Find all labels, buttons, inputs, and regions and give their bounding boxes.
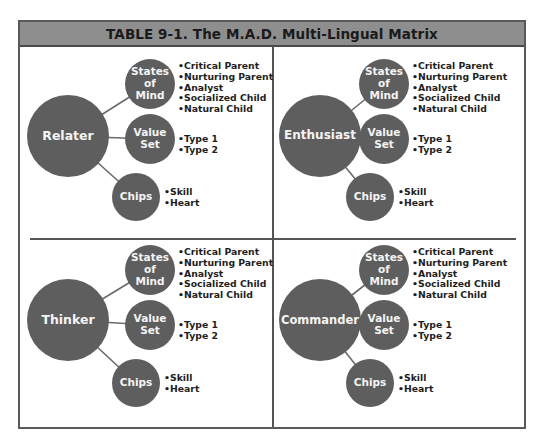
node-label-line: Set bbox=[140, 138, 160, 150]
personality-type-label: Commander bbox=[281, 314, 359, 327]
personality-type-circle: Commander bbox=[279, 279, 361, 361]
quadrant-commander: CommanderStatesofMindCritical ParentNurt… bbox=[274, 242, 528, 432]
list-item: Natural Child bbox=[178, 104, 273, 115]
quadrant-relater: RelaterStatesofMindCritical ParentNurtur… bbox=[20, 47, 274, 237]
chips-list: SkillHeart bbox=[164, 187, 199, 209]
node-label-line: Chips bbox=[120, 190, 153, 202]
personality-type-circle: Thinker bbox=[27, 279, 109, 361]
node-chips: Chips bbox=[346, 173, 394, 221]
node-states-of-mind: StatesofMind bbox=[125, 59, 175, 109]
node-label-line: Mind bbox=[135, 89, 164, 101]
node-label-line: States bbox=[131, 65, 169, 77]
list-item: Type 2 bbox=[412, 331, 452, 342]
list-item: Nurturing Parent bbox=[178, 258, 273, 269]
node-label-line: Chips bbox=[354, 376, 387, 388]
node-label-line: States bbox=[365, 65, 403, 77]
list-item: Type 2 bbox=[178, 331, 218, 342]
node-states-of-mind: StatesofMind bbox=[359, 59, 409, 109]
node-label-line: of bbox=[144, 263, 156, 275]
states-of-mind-list: Critical ParentNurturing ParentAnalystSo… bbox=[178, 61, 273, 115]
node-label-line: of bbox=[378, 263, 390, 275]
list-item: Nurturing Parent bbox=[412, 258, 507, 269]
list-item: Natural Child bbox=[412, 104, 507, 115]
list-item: Nurturing Parent bbox=[412, 72, 507, 83]
node-chips: Chips bbox=[112, 173, 160, 221]
personality-type-label: Relater bbox=[42, 129, 93, 143]
value-set-list: Type 1Type 2 bbox=[178, 134, 218, 156]
value-set-list: Type 1Type 2 bbox=[412, 134, 452, 156]
node-label-line: Value bbox=[368, 126, 401, 138]
node-states-of-mind: StatesofMind bbox=[359, 245, 409, 295]
quadrant-thinker: ThinkerStatesofMindCritical ParentNurtur… bbox=[20, 242, 274, 432]
node-value-set: ValueSet bbox=[359, 300, 409, 350]
list-item: Heart bbox=[398, 384, 433, 395]
node-chips: Chips bbox=[346, 359, 394, 407]
node-value-set: ValueSet bbox=[125, 300, 175, 350]
chips-list: SkillHeart bbox=[398, 187, 433, 209]
quadrant-enthusiast: EnthusiastStatesofMindCritical ParentNur… bbox=[274, 47, 528, 237]
node-label-line: Value bbox=[134, 312, 167, 324]
node-label-line: Value bbox=[368, 312, 401, 324]
table-header: TABLE 9-1. The M.A.D. Multi-Lingual Matr… bbox=[20, 22, 524, 47]
list-item: Type 2 bbox=[412, 145, 452, 156]
list-item: Natural Child bbox=[412, 290, 507, 301]
node-label-line: Mind bbox=[369, 275, 398, 287]
chips-list: SkillHeart bbox=[164, 373, 199, 395]
list-item: Heart bbox=[164, 384, 199, 395]
node-label-line: Value bbox=[134, 126, 167, 138]
node-label-line: of bbox=[378, 77, 390, 89]
node-label-line: Set bbox=[140, 324, 160, 336]
states-of-mind-list: Critical ParentNurturing ParentAnalystSo… bbox=[178, 247, 273, 301]
node-label-line: States bbox=[365, 251, 403, 263]
personality-type-circle: Enthusiast bbox=[279, 95, 361, 177]
node-chips: Chips bbox=[112, 359, 160, 407]
states-of-mind-list: Critical ParentNurturing ParentAnalystSo… bbox=[412, 247, 507, 301]
horizontal-divider bbox=[30, 238, 516, 240]
node-value-set: ValueSet bbox=[359, 114, 409, 164]
node-value-set: ValueSet bbox=[125, 114, 175, 164]
node-states-of-mind: StatesofMind bbox=[125, 245, 175, 295]
chips-list: SkillHeart bbox=[398, 373, 433, 395]
personality-type-label: Enthusiast bbox=[284, 129, 356, 142]
list-item: Heart bbox=[164, 198, 199, 209]
node-label-line: Mind bbox=[135, 275, 164, 287]
states-of-mind-list: Critical ParentNurturing ParentAnalystSo… bbox=[412, 61, 507, 115]
node-label-line: States bbox=[131, 251, 169, 263]
node-label-line: Chips bbox=[354, 190, 387, 202]
node-label-line: Chips bbox=[120, 376, 153, 388]
table-title: TABLE 9-1. The M.A.D. Multi-Lingual Matr… bbox=[106, 26, 438, 42]
personality-type-label: Thinker bbox=[41, 313, 94, 327]
personality-type-circle: Relater bbox=[27, 95, 109, 177]
node-label-line: of bbox=[144, 77, 156, 89]
list-item: Natural Child bbox=[178, 290, 273, 301]
matrix-table: TABLE 9-1. The M.A.D. Multi-Lingual Matr… bbox=[18, 20, 526, 429]
value-set-list: Type 1Type 2 bbox=[178, 320, 218, 342]
node-label-line: Mind bbox=[369, 89, 398, 101]
node-label-line: Set bbox=[374, 138, 394, 150]
list-item: Nurturing Parent bbox=[178, 72, 273, 83]
list-item: Type 2 bbox=[178, 145, 218, 156]
list-item: Heart bbox=[398, 198, 433, 209]
value-set-list: Type 1Type 2 bbox=[412, 320, 452, 342]
node-label-line: Set bbox=[374, 324, 394, 336]
